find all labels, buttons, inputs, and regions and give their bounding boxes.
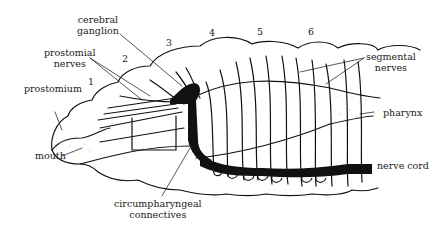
label-cerebral-ganglion-line2: ganglion [77,25,119,36]
label-prostomial-nerves-line1: prostomial [44,47,96,58]
label-cerebral-ganglion-line1: cerebral [77,14,119,25]
stipple-texture [63,95,366,152]
leader-prostomial-nerves-2 [90,58,142,100]
body-outline-top [52,37,420,150]
segment-number-4: 4 [209,27,215,38]
label-prostomial-nerves-line2: nerves [44,58,96,69]
leader-segmental-nerves-1 [300,58,364,72]
label-circumpharyngeal-line2: connectives [114,209,202,220]
label-nerve-cord: nerve cord [377,160,429,171]
label-circumpharyngeal-connectives: circumpharyngeal connectives [114,198,202,220]
leader-pharynx [360,112,374,114]
segment-number-3: 3 [166,37,172,48]
diagram-drawing [0,0,443,232]
earthworm-nervous-system-diagram: cerebral ganglion prostomial nerves pros… [0,0,443,232]
segment-number-5: 5 [257,26,263,37]
leader-circumpharyngeal [162,148,190,196]
label-prostomium: prostomium [24,83,82,94]
pharynx-tube-top [196,81,330,96]
label-segmental-nerves: segmental nerves [366,51,416,73]
label-segmental-nerves-line1: segmental [366,51,416,62]
label-cerebral-ganglion: cerebral ganglion [77,14,119,36]
posterior-outline-top [330,88,380,98]
label-prostomial-nerves: prostomial nerves [44,47,96,69]
segment-number-1: 1 [88,76,94,87]
posterior-outline-bottom [330,116,373,124]
label-mouth: mouth [35,150,66,161]
segment-number-2: 2 [122,53,128,64]
label-circumpharyngeal-line1: circumpharyngeal [114,198,202,209]
label-pharynx: pharynx [383,107,422,118]
leader-cerebral-ganglion [120,34,182,86]
segment-number-6: 6 [308,26,314,37]
prostomium-outline [52,128,110,150]
pharynx-tube-bottom [196,124,330,158]
label-segmental-nerves-line2: nerves [366,62,416,73]
